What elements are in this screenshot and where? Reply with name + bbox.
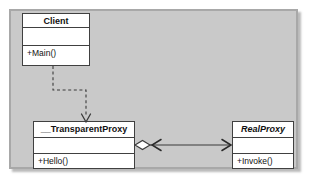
relationship-dependency-client-transparentproxy: [53, 66, 91, 122]
uml-class-name-transparentproxy: __TransparentProxy: [34, 122, 134, 138]
uml-class-transparentproxy[interactable]: __TransparentProxy +Hello(): [33, 121, 135, 169]
dependency-line: [53, 66, 86, 115]
uml-operation-realproxy-invoke: +Invoke(): [233, 154, 293, 168]
uml-class-name-realproxy: RealProxy: [233, 122, 293, 138]
relationship-aggregation-transparentproxy-realproxy: [135, 140, 231, 151]
uml-attributes-transparentproxy: [34, 138, 134, 154]
aggregation-hollow-diamond: [135, 141, 150, 150]
uml-operation-transparentproxy-hello: +Hello(): [34, 154, 134, 168]
uml-class-diagram: Client +Main() __TransparentProxy +Hello…: [0, 0, 313, 184]
aggregation-left-arrowhead: [152, 140, 161, 151]
uml-class-client[interactable]: Client +Main(): [22, 13, 90, 66]
aggregation-right-arrowhead: [222, 140, 231, 151]
uml-operation-client-main: +Main(): [23, 46, 89, 65]
uml-attributes-realproxy: [233, 138, 293, 154]
diagram-canvas: Client +Main() __TransparentProxy +Hello…: [9, 9, 298, 169]
uml-attributes-client: [23, 28, 89, 46]
uml-class-name-client: Client: [23, 14, 89, 28]
uml-class-realproxy[interactable]: RealProxy +Invoke(): [232, 121, 294, 169]
